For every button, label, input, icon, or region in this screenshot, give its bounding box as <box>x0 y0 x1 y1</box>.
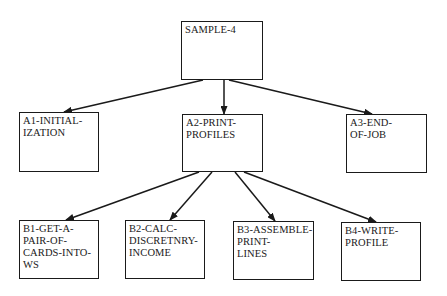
node-label: A2-PRINT- PROFILES <box>186 117 236 140</box>
node-label: A3-END- OF-JOB <box>350 117 392 140</box>
node-label: SAMPLE-4 <box>185 24 236 35</box>
node-a1-initialization: A1-INITIAL- IZATION <box>19 112 99 172</box>
node-label: B4-WRITE- PROFILE <box>345 225 398 248</box>
edge-a2-to-b4 <box>244 172 376 222</box>
node-sample-4: SAMPLE-4 <box>181 21 263 80</box>
node-label: A1-INITIAL- IZATION <box>23 115 82 138</box>
node-a2-print-profiles: A2-PRINT- PROFILES <box>182 114 263 172</box>
edge-a2-to-b1 <box>66 172 199 220</box>
edge-root-to-a1 <box>64 80 203 112</box>
node-b4-write-profile: B4-WRITE- PROFILE <box>341 222 421 281</box>
node-label: B1-GET-A- PAIR-OF- CARDS-INTO- WS <box>23 223 91 270</box>
node-b3-assemble-print-lines: B3-ASSEMBLE- PRINT- LINES <box>233 221 314 280</box>
edge-a2-to-b2 <box>170 172 212 220</box>
edge-a2-to-b3 <box>235 172 275 221</box>
structure-chart-canvas: SAMPLE-4 A1-INITIAL- IZATION A2-PRINT- P… <box>0 0 447 296</box>
node-b2-calc-discretnry-income: B2-CALC- DISCRETNRY- INCOME <box>125 220 205 279</box>
node-a3-end-of-job: A3-END- OF-JOB <box>346 114 427 173</box>
node-label: B2-CALC- DISCRETNRY- INCOME <box>129 223 198 258</box>
node-b1-get-a-pair-of-cards: B1-GET-A- PAIR-OF- CARDS-INTO- WS <box>19 220 99 279</box>
edge-root-to-a3 <box>229 80 372 114</box>
node-label: B3-ASSEMBLE- PRINT- LINES <box>237 224 312 259</box>
